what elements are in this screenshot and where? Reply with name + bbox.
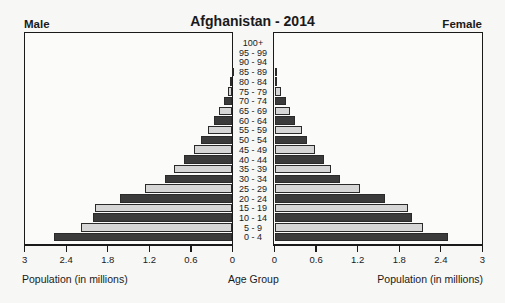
age-group-label: 40 - 44: [232, 155, 274, 165]
age-group-label: 50 - 54: [232, 135, 274, 145]
female-bar: [275, 155, 324, 164]
male-axis-tick: [232, 245, 233, 252]
male-bar: [145, 184, 232, 193]
age-group-label: 35 - 39: [232, 164, 274, 174]
female-bar: [275, 194, 385, 203]
male-bar: [184, 155, 233, 164]
female-bar: [275, 107, 290, 116]
male-axis-tick: [24, 245, 25, 252]
male-bar: [201, 136, 232, 145]
female-axis-tick-label: 0.6: [301, 254, 331, 265]
age-group-label: 5 - 9: [232, 223, 274, 233]
age-group-label: 95 - 99: [232, 48, 274, 58]
male-bar: [165, 175, 232, 184]
male-x-axis: [24, 244, 233, 246]
age-group-label: 45 - 49: [232, 145, 274, 155]
male-axis-tick: [66, 245, 67, 252]
male-bar: [54, 233, 232, 242]
age-group-label: 25 - 29: [232, 184, 274, 194]
age-group-label: 20 - 24: [232, 194, 274, 204]
male-axis-tick: [107, 245, 108, 252]
age-group-label: 100+: [232, 38, 274, 48]
male-axis-tick-label: 1.8: [93, 254, 123, 265]
male-axis-tick-label: 1.2: [134, 254, 164, 265]
age-group-label: 55 - 59: [232, 125, 274, 135]
age-group-label: 70 - 74: [232, 96, 274, 106]
male-bar: [93, 213, 233, 222]
age-group-label: 90 - 94: [232, 57, 274, 67]
male-bar: [81, 223, 232, 232]
male-bar: [208, 126, 233, 135]
female-bar: [275, 145, 315, 154]
female-axis-tick-label: 3: [467, 254, 497, 265]
male-axis-tick: [190, 245, 191, 252]
age-group-label: 0 - 4: [232, 232, 274, 242]
female-bar: [275, 77, 278, 86]
male-label: Male: [24, 18, 50, 30]
female-x-axis-title: Population (in millions): [377, 273, 483, 285]
male-axis-tick-label: 0: [218, 254, 248, 265]
female-axis-tick: [399, 245, 400, 252]
female-axis-tick-label: 0: [260, 254, 290, 265]
male-bar: [95, 204, 233, 213]
age-group-label: 65 - 69: [232, 106, 274, 116]
female-bar: [275, 175, 341, 184]
female-axis-tick: [440, 245, 441, 252]
age-group-label: 60 - 64: [232, 116, 274, 126]
male-axis-tick-label: 3: [10, 254, 40, 265]
female-bar: [275, 213, 413, 222]
male-axis-tick: [149, 245, 150, 252]
female-axis-tick: [357, 245, 358, 252]
male-axis-tick-label: 2.4: [51, 254, 81, 265]
female-bar: [275, 97, 286, 106]
female-bar: [275, 223, 423, 232]
female-bar: [275, 136, 308, 145]
male-bar: [174, 165, 233, 174]
female-label: Female: [442, 18, 482, 30]
male-bar: [219, 107, 232, 116]
age-axis-title: Age Group: [228, 273, 279, 285]
female-bar: [275, 184, 360, 193]
female-axis-tick-label: 1.2: [343, 254, 373, 265]
female-bar: [275, 126, 302, 135]
age-group-label: 10 - 14: [232, 213, 274, 223]
female-bar: [275, 204, 409, 213]
female-bar: [275, 116, 295, 125]
age-group-label: 75 - 79: [232, 87, 274, 97]
female-axis-tick: [315, 245, 316, 252]
female-bar: [275, 165, 332, 174]
female-axis-tick-label: 2.4: [426, 254, 456, 265]
male-axis-tick-label: 0.6: [176, 254, 206, 265]
female-axis-tick: [482, 245, 483, 252]
male-bar: [120, 194, 233, 203]
age-group-label: 15 - 19: [232, 203, 274, 213]
female-axis-tick: [274, 245, 275, 252]
female-axis-tick-label: 1.8: [384, 254, 414, 265]
male-bar: [194, 145, 233, 154]
male-x-axis-title: Population (in millions): [22, 273, 128, 285]
female-x-axis: [273, 244, 483, 246]
female-bar: [275, 87, 282, 96]
male-bar: [214, 116, 232, 125]
age-group-label: 85 - 89: [232, 67, 274, 77]
female-bar: [275, 233, 449, 242]
age-group-label: 30 - 34: [232, 174, 274, 184]
female-bar: [275, 68, 277, 77]
chart-title: Afghanistan - 2014: [0, 13, 505, 29]
age-group-label: 80 - 84: [232, 77, 274, 87]
